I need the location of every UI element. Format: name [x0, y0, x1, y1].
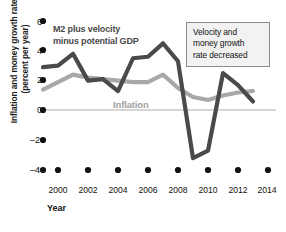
x-axis-title: Year — [47, 203, 66, 213]
series-label-inflation: Inflation — [113, 99, 149, 110]
series-label-m2-line1: M2 plus velocity — [53, 24, 120, 34]
annotation-velocity-note: Velocity and money growth rate decreased — [186, 22, 270, 67]
annotation-line1: Velocity and — [193, 27, 237, 37]
x-axis-tick-dots — [55, 167, 271, 173]
series-label-m2-velocity: M2 plus velocity minus potential GDP — [53, 24, 139, 47]
y-axis-tick-dots — [40, 18, 46, 173]
annotation-line2: money growth — [193, 38, 244, 48]
annotation-line3: rate decreased — [193, 50, 247, 60]
series-label-m2-line2: minus potential GDP — [53, 36, 139, 46]
chart-figure: Inflation and money growth rates (percen… — [0, 0, 286, 232]
